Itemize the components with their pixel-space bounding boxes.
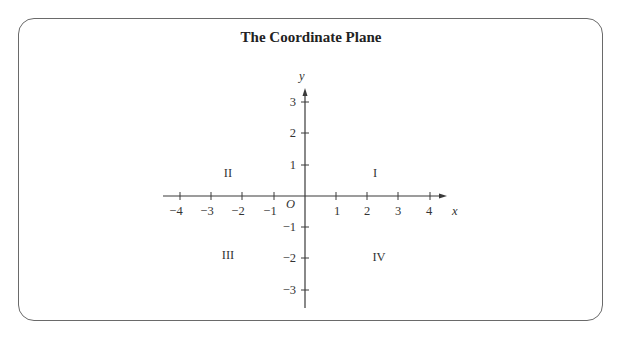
x-tick-labels: −4 −3 −2 −1 1 2 3 4 <box>169 204 433 218</box>
y-tick-label: 1 <box>290 158 296 172</box>
quadrant-1-label: I <box>373 166 377 180</box>
y-axis <box>301 88 309 308</box>
coordinate-plane: −4 −3 −2 −1 1 2 3 4 3 2 1 −1 −2 −3 x y O… <box>0 0 622 341</box>
y-tick-label: −1 <box>283 220 296 234</box>
x-tick-label: −2 <box>231 204 244 218</box>
y-tick-label: 3 <box>290 95 296 109</box>
x-axis-label: x <box>451 204 458 218</box>
x-tick-label: −3 <box>200 204 213 218</box>
y-axis-arrow-icon <box>303 88 308 96</box>
x-axis-arrow-icon <box>439 194 447 199</box>
quadrant-2-label: II <box>224 166 232 180</box>
origin-label: O <box>286 197 295 211</box>
y-tick-label: −2 <box>283 251 296 265</box>
x-tick-label: 4 <box>426 204 433 218</box>
quadrant-4-label: IV <box>372 250 385 264</box>
x-tick-label: 1 <box>334 204 340 218</box>
y-axis-label: y <box>297 69 305 83</box>
y-tick-label: −3 <box>283 283 296 297</box>
x-tick-label: 3 <box>395 204 401 218</box>
x-tick-label: 2 <box>364 204 370 218</box>
x-tick-label: −1 <box>263 204 276 218</box>
quadrant-3-label: III <box>222 248 235 262</box>
x-tick-label: −4 <box>169 204 183 218</box>
y-tick-label: 2 <box>290 126 296 140</box>
